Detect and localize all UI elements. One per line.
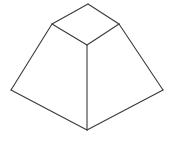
frustum-figure xyxy=(0,0,179,141)
drawing-canvas xyxy=(0,0,179,141)
